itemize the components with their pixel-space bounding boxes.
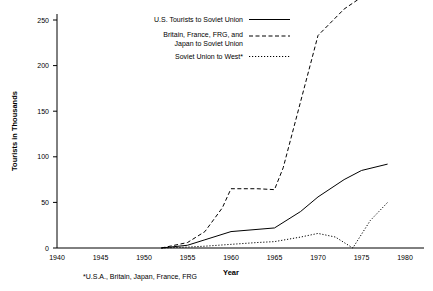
x-tick-label: 1975 [354,254,370,261]
x-tick-label: 1945 [93,254,109,261]
x-tick-label: 1955 [180,254,196,261]
legend: U.S. Tourists to Soviet Union Britain, F… [154,16,290,60]
y-tick-label: 250 [37,17,49,24]
x-tick-label: 1950 [136,254,152,261]
footnote: *U.S.A., Britain, Japan, France, FRG [83,273,197,281]
y-tick-label: 100 [37,153,49,160]
y-tick-label: 200 [37,62,49,69]
x-axis-tick-labels: 1940 1945 1950 1955 1960 1965 1970 1975 … [49,254,413,261]
x-axis-title: Year [223,268,239,277]
x-tick-label: 1970 [310,254,326,261]
legend-label-0: U.S. Tourists to Soviet Union [154,16,243,23]
y-axis-tick-labels: 0 50 100 150 200 250 [37,17,49,252]
y-axis-title: Tourists in Thousands [10,91,19,171]
x-tick-label: 1980 [397,254,413,261]
x-tick-label: 1940 [49,254,65,261]
legend-label-1-line1: Britain, France, FRG, and [163,31,243,38]
y-tick-label: 0 [45,245,49,252]
series-path-0 [161,164,387,248]
y-axis-ticks [53,20,57,248]
legend-label-2: Soviet Union to West* [175,53,243,60]
line-chart: 0 50 100 150 200 250 Tourists in Thousan… [0,0,433,291]
y-tick-label: 150 [37,108,49,115]
x-tick-label: 1965 [267,254,283,261]
chart-container: 0 50 100 150 200 250 Tourists in Thousan… [0,0,433,291]
legend-label-1-line2: Japan to Soviet Union [175,40,244,48]
series-path-2 [161,202,387,248]
y-tick-label: 50 [41,199,49,206]
x-tick-label: 1960 [223,254,239,261]
